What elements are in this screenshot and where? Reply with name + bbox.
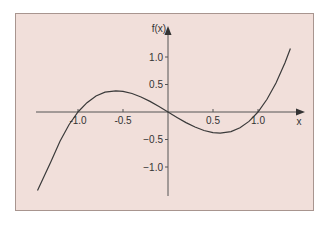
x-tick-label: 0.5 xyxy=(206,115,220,126)
y-tick-label: 0.5 xyxy=(149,79,163,90)
function-plot: -1.0-0.50.51.01.00.5−0.5−1.0 x f(x) xyxy=(0,0,330,225)
y-axis-label: f(x) xyxy=(152,23,166,34)
x-axis-label: x xyxy=(297,116,302,127)
y-tick-label: −1.0 xyxy=(143,162,163,173)
x-axis-arrow-icon xyxy=(296,109,305,116)
y-tick-label: 1.0 xyxy=(149,52,163,63)
x-tick-label: -0.5 xyxy=(114,115,132,126)
y-tick-label: −0.5 xyxy=(143,134,163,145)
